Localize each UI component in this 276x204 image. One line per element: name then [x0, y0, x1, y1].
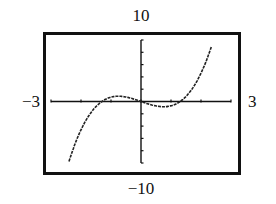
viewing-window-frame	[45, 34, 240, 174]
graph-plot-area	[0, 0, 276, 204]
